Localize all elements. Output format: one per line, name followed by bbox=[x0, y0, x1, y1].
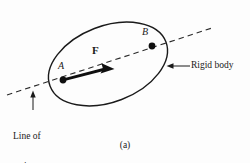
point-b-marker bbox=[149, 43, 156, 50]
rigid-body-label: Rigid body bbox=[191, 60, 234, 70]
line-of-action-label-line2: action bbox=[13, 161, 41, 163]
force-vector-arrow bbox=[63, 63, 115, 81]
figure-caption: (a) bbox=[0, 140, 250, 150]
figure-container: A B F Rigid body Line of action (a) bbox=[0, 0, 250, 163]
point-a-label: A bbox=[58, 61, 64, 72]
line-of-action-leader-line bbox=[30, 91, 35, 111]
line-of-action-label: Line of action bbox=[13, 110, 41, 163]
point-a-marker bbox=[60, 77, 67, 84]
rigid-body-leader-line bbox=[167, 63, 191, 69]
line-of-action-dashed-line bbox=[7, 28, 212, 95]
force-vector-label: F bbox=[92, 45, 99, 57]
point-b-label: B bbox=[142, 27, 148, 38]
